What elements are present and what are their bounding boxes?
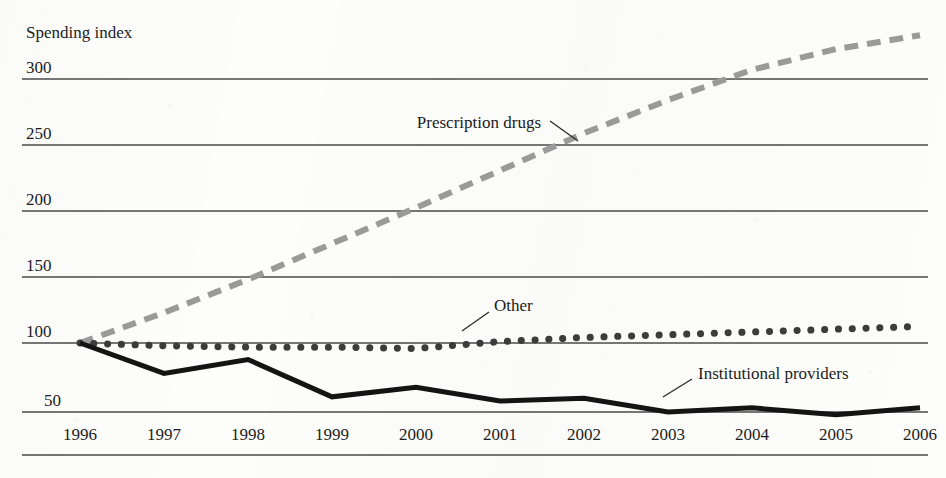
series-annotations: Prescription drugs Other Institutional p… [417,113,849,397]
y-tick-200: 200 [26,190,52,209]
leader-line-other [462,312,489,331]
x-tick-2005: 2005 [819,425,853,444]
x-tick-1996: 1996 [63,425,97,444]
x-tick-1997: 1997 [147,425,182,444]
series-line-other [80,326,920,348]
chart-figure: Spending index 300 250 200 150 100 50 19… [0,0,946,478]
series-label-institutional-providers: Institutional providers [698,364,849,383]
x-tick-2004: 2004 [735,425,770,444]
x-tick-2003: 2003 [651,425,685,444]
leader-line-institutional-providers [663,379,692,397]
x-tick-2001: 2001 [483,425,517,444]
y-tick-150: 150 [26,256,52,275]
y-tick-50: 50 [44,391,61,410]
x-tick-2002: 2002 [567,425,601,444]
x-tick-labels: 1996 1997 1998 1999 2000 2001 2002 2003 … [63,425,937,444]
series-label-other: Other [494,296,533,315]
y-tick-100: 100 [26,322,52,341]
x-tick-2000: 2000 [399,425,433,444]
x-tick-2006: 2006 [903,425,937,444]
y-tick-labels: 300 250 200 150 100 50 [26,58,61,410]
spending-index-line-chart: Spending index 300 250 200 150 100 50 19… [0,0,946,478]
y-axis-title: Spending index [26,23,133,42]
series-layer [80,35,920,415]
y-tick-250: 250 [26,124,52,143]
x-tick-1999: 1999 [315,425,349,444]
leader-line-prescription-drugs [550,121,578,141]
x-tick-1998: 1998 [231,425,265,444]
y-tick-300: 300 [26,58,52,77]
series-label-prescription-drugs: Prescription drugs [417,113,541,132]
